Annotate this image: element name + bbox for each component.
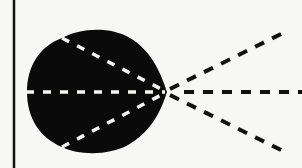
outer-dashes (170, 31, 302, 153)
diagram-canvas (0, 0, 302, 168)
lower-ray-outer (170, 95, 287, 153)
upper-ray-outer (170, 31, 287, 89)
